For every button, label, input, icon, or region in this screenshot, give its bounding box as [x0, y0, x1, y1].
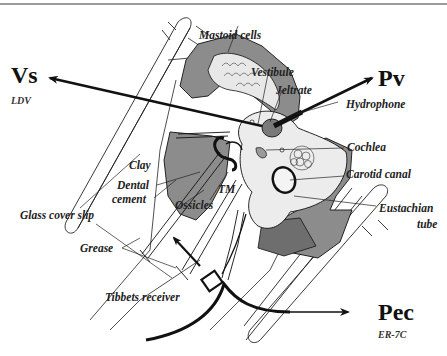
label-cochlea: Cochlea: [347, 142, 386, 154]
label-vestibule: Vestibule: [251, 67, 294, 79]
label-carotid-canal: Carotid canal: [346, 169, 411, 181]
label-clay: Clay: [129, 160, 151, 172]
label-tube: tube: [417, 219, 437, 231]
label-eustachian: Eustachian: [379, 203, 433, 215]
label-tm: TM: [218, 184, 235, 196]
tibbets-receiver-box: [201, 271, 222, 292]
label-ossicles: Ossicles: [175, 200, 213, 212]
label-hydrophone: Hydrophone: [346, 99, 405, 111]
pec-label: Pec: [378, 300, 414, 324]
label-jeltrate: Jeltrate: [276, 85, 312, 97]
er7c-sublabel: ER-7C: [378, 330, 406, 340]
label-cement: cement: [112, 194, 146, 206]
label-grease: Grease: [80, 243, 113, 255]
label-tibbets-receiver: Tibbets receiver: [105, 292, 180, 304]
ldv-sublabel: LDV: [11, 96, 31, 106]
pv-label: Pv: [378, 66, 405, 90]
label-glass-cover-slip: Glass cover slip: [20, 210, 94, 222]
label-dental: Dental: [117, 180, 149, 192]
vs-label: Vs: [11, 63, 38, 87]
label-mastoid-cells: Mastoid cells: [199, 30, 261, 42]
